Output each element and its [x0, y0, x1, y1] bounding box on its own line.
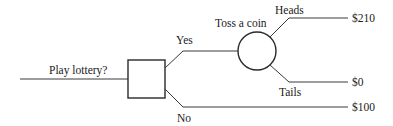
outcome-heads: $210 — [352, 12, 375, 24]
decision-label: Play lottery? — [49, 64, 107, 77]
yes-branch-line — [165, 51, 238, 68]
yes-branch-label: Yes — [176, 34, 193, 46]
chance-node-circle — [238, 32, 276, 70]
no-branch-line — [165, 89, 348, 107]
heads-branch-line — [270, 18, 348, 37]
outcome-tails: $0 — [352, 76, 364, 88]
tails-branch-line — [270, 65, 348, 82]
heads-branch-label: Heads — [275, 4, 304, 16]
tails-branch-label: Tails — [279, 86, 302, 98]
decision-node-square — [128, 60, 165, 98]
no-branch-label: No — [177, 112, 191, 124]
outcome-no: $100 — [352, 101, 375, 113]
decision-tree-diagram: Play lottery? Yes No $100 Toss a coin He… — [0, 0, 393, 126]
chance-label: Toss a coin — [215, 17, 267, 29]
